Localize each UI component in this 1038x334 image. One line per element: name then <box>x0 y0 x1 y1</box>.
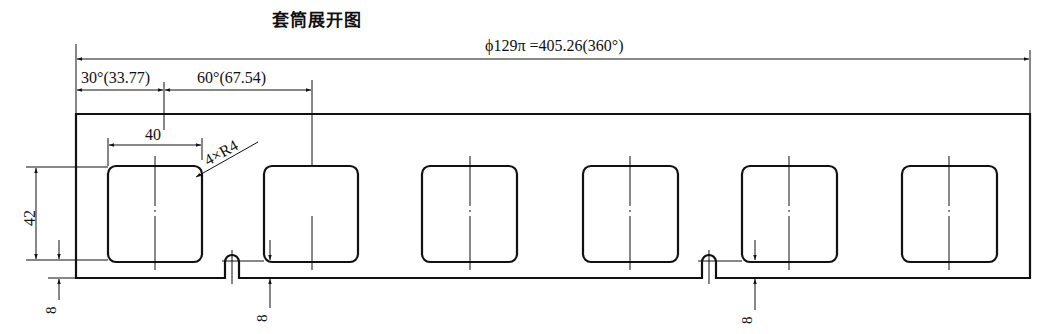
corner-radius-label: 4×R4 <box>201 136 240 168</box>
offset-dimensions <box>77 80 312 166</box>
window-height-label: 42 <box>21 210 38 226</box>
first-offset-label: 30°(33.77) <box>81 69 150 87</box>
overall-dimension-label: ϕ129π =405.26(360°) <box>485 37 624 55</box>
bottom-gap-label-3: 8 <box>739 317 755 325</box>
center-lines <box>155 156 949 284</box>
windows <box>108 166 997 262</box>
sleeve-development-drawing: ϕ129π =405.26(360°) 30°(33.77) 60°(67.54… <box>0 0 1038 334</box>
bottom-gap-dimensions <box>48 240 755 310</box>
pitch-label: 60°(67.54) <box>197 69 266 87</box>
window-height-dimension <box>26 167 108 260</box>
window-width-label: 40 <box>145 126 161 143</box>
bottom-gap-label-2: 8 <box>254 315 270 323</box>
outer-boundary <box>76 114 1030 278</box>
bottom-gap-label-1: 8 <box>43 307 59 315</box>
